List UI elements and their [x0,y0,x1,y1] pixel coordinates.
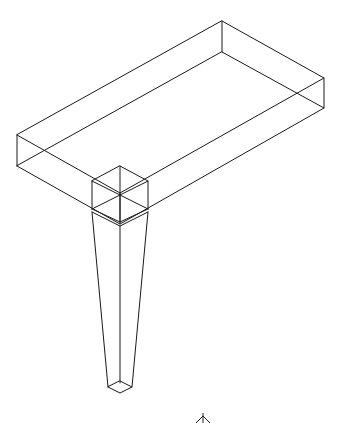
leg-edge-right [132,212,148,387]
wireframe-canvas [0,0,342,423]
slab-top-face [17,21,324,193]
ucs-marker-icon [196,413,210,423]
table-slab [17,21,324,224]
leg-edge-left [92,212,108,387]
tapered-leg [92,212,148,393]
leg-block [92,166,148,222]
slab-bottom-face [17,52,324,224]
